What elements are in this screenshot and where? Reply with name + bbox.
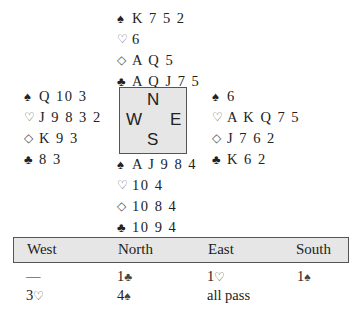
header-west: West [27, 241, 57, 258]
south-hearts: ♡10 4 [117, 175, 197, 196]
south-hand: ♠A J 9 8 4 ♡10 4 ◇10 8 4 ♣10 9 4 [117, 154, 197, 238]
north-hearts: ♡6 [117, 29, 200, 50]
south-diamonds: ◇10 8 4 [117, 196, 197, 217]
south-spades: ♠A J 9 8 4 [117, 154, 197, 175]
bid-r1-west: — [26, 268, 41, 285]
east-clubs: ♣K 6 2 [212, 149, 300, 170]
header-north: North [118, 241, 153, 258]
club-icon: ♣ [212, 149, 227, 170]
header-east: East [208, 241, 234, 258]
compass-south: S [147, 130, 158, 150]
east-diamonds: ◇J 7 6 2 [212, 128, 300, 149]
club-icon: ♣ [124, 270, 132, 284]
south-clubs: ♣10 9 4 [117, 217, 197, 238]
heart-icon: ♡ [212, 107, 227, 128]
club-icon: ♣ [24, 149, 39, 170]
compass-west: W [126, 110, 142, 130]
spade-icon: ♠ [117, 8, 132, 29]
bid-r1-east: 1♡ [207, 268, 225, 285]
west-hearts: ♡J 9 8 3 2 [24, 107, 102, 128]
compass-east: E [170, 110, 181, 130]
heart-icon: ♡ [117, 175, 132, 196]
bid-r1-north: 1♣ [117, 268, 132, 285]
auction-header: West North East South [13, 237, 349, 263]
west-spades: ♠Q 10 3 [24, 86, 102, 107]
spade-icon: ♠ [124, 289, 130, 303]
west-clubs: ♣8 3 [24, 149, 102, 170]
club-icon: ♣ [117, 217, 132, 238]
spade-icon: ♠ [24, 86, 39, 107]
east-hand: ♠6 ♡A K Q 7 5 ◇J 7 6 2 ♣K 6 2 [212, 86, 300, 170]
west-hand: ♠Q 10 3 ♡J 9 8 3 2 ◇K 9 3 ♣8 3 [24, 86, 102, 170]
east-hearts: ♡A K Q 7 5 [212, 107, 300, 128]
spade-icon: ♠ [304, 270, 310, 284]
diamond-icon: ◇ [212, 128, 227, 149]
compass-box: N W E S [119, 87, 187, 154]
heart-icon: ♡ [24, 107, 39, 128]
bid-r2-east: all pass [207, 287, 250, 304]
bid-r1-south: 1♠ [297, 268, 311, 285]
heart-icon: ♡ [214, 270, 225, 284]
compass-north: N [147, 90, 159, 110]
diamond-icon: ◇ [24, 128, 39, 149]
east-spades: ♠6 [212, 86, 300, 107]
north-hand: ♠K 7 5 2 ♡6 ◇A Q 5 ♣A Q J 7 5 [117, 8, 200, 92]
spade-icon: ♠ [117, 154, 132, 175]
bid-r2-west: 3♡ [26, 287, 44, 304]
spade-icon: ♠ [212, 86, 227, 107]
north-spades: ♠K 7 5 2 [117, 8, 200, 29]
diamond-icon: ◇ [117, 196, 132, 217]
north-diamonds: ◇A Q 5 [117, 50, 200, 71]
header-south: South [296, 241, 331, 258]
west-diamonds: ◇K 9 3 [24, 128, 102, 149]
diamond-icon: ◇ [117, 50, 132, 71]
bid-r2-north: 4♠ [117, 287, 131, 304]
heart-icon: ♡ [33, 289, 44, 303]
heart-icon: ♡ [117, 29, 132, 50]
